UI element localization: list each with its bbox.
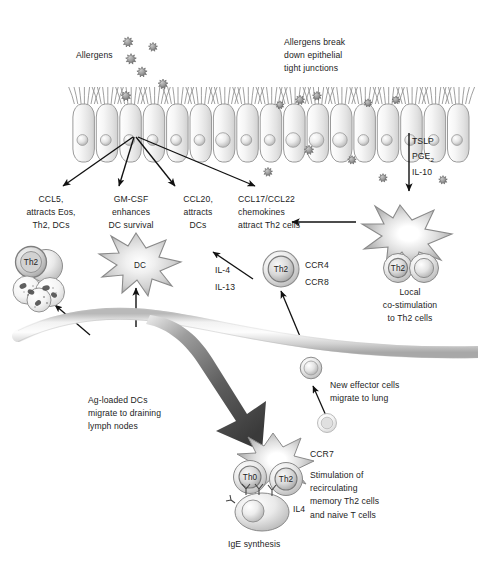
epithelial-cell xyxy=(73,104,95,162)
epithelial-cell xyxy=(260,104,282,162)
epithelial-nucleus xyxy=(381,135,392,146)
label-ag-loaded-dcs: Ag-loaded DCs migrate to draining lymph … xyxy=(88,394,161,434)
label-pge2-subscript: 2 xyxy=(430,156,434,163)
cilium xyxy=(88,87,90,104)
cilium xyxy=(454,87,456,104)
epithelial-cell xyxy=(377,104,399,162)
epithelial-cell xyxy=(237,104,258,162)
cilium xyxy=(430,87,432,104)
effector-cell-in-vessel xyxy=(300,357,322,379)
cilium xyxy=(469,87,475,104)
epithelial-nucleus xyxy=(241,135,252,146)
cilium xyxy=(69,87,75,104)
label-il4: IL-4 xyxy=(215,264,230,277)
epithelial-cell xyxy=(190,104,212,162)
effector-cell-below-vessel xyxy=(318,414,337,433)
cilium xyxy=(407,87,409,104)
cilium xyxy=(158,87,160,104)
cell-tag-th0-lymph: Th0 xyxy=(243,473,257,482)
epithelial-nucleus xyxy=(309,133,324,148)
label-pge2: PGE2 xyxy=(412,150,434,166)
cilium xyxy=(205,87,207,104)
cilium xyxy=(466,87,470,104)
cilium xyxy=(275,87,277,104)
epithelial-nucleus xyxy=(100,135,111,146)
label-gm-csf: GM-CSF enhances DC survival xyxy=(108,193,153,233)
label-il13: IL-13 xyxy=(215,281,235,294)
label-il4-lymph: IL4 xyxy=(293,503,305,516)
epithelial-nucleus xyxy=(77,135,88,146)
cilium xyxy=(228,87,230,104)
epithelial-nucleus xyxy=(264,135,275,146)
cilium xyxy=(290,87,292,104)
allergen-particle xyxy=(123,37,133,47)
allergen-particle xyxy=(313,91,322,100)
allergen-particle xyxy=(264,167,273,176)
label-ige-synthesis: IgE synthesis xyxy=(228,538,280,551)
cilium xyxy=(181,87,183,104)
cilium xyxy=(439,87,441,104)
label-allergens-break: Allergens break down epithelial tight ju… xyxy=(284,36,345,76)
label-ccl17-ccl22: CCL17/CCL22 chemokines attract Th2 cells xyxy=(238,193,300,233)
cilium xyxy=(103,87,105,104)
allergen-particle xyxy=(137,67,147,77)
cell-tag-dc-left: DC xyxy=(134,261,146,270)
dendritic-cell-right xyxy=(362,205,452,283)
cilium xyxy=(337,87,339,104)
cell-tag-th2-right: Th2 xyxy=(391,264,405,273)
cell-tag-th2-lymph: Th2 xyxy=(279,475,293,484)
epithelial-nucleus xyxy=(286,133,301,148)
cell-tag-th2-left: Th2 xyxy=(24,258,38,267)
cilium xyxy=(74,87,78,104)
cilium xyxy=(360,87,362,104)
allergen-particle xyxy=(295,95,304,104)
label-ccl20: CCL20, attracts DCs xyxy=(183,193,213,233)
effector-migration-arrow xyxy=(313,386,327,418)
epithelial-nucleus xyxy=(194,135,205,146)
epithelial-cell xyxy=(96,104,118,162)
allergen-particle xyxy=(379,174,388,183)
lymph-node-complex xyxy=(226,433,314,531)
epithelial-cell xyxy=(120,104,142,162)
cilium xyxy=(135,87,137,104)
figure-root: Allergens Allergens break down epithelia… xyxy=(0,0,478,578)
label-local-costimulation: Local co-stimulation to Th2 cells xyxy=(383,286,437,326)
allergen-particle xyxy=(126,54,137,65)
label-pge2-base: PGE xyxy=(412,151,430,161)
epithelial-nucleus xyxy=(358,135,369,146)
cilium xyxy=(220,87,222,104)
label-tslp: TSLP xyxy=(412,135,434,148)
label-ccr8: CCR8 xyxy=(305,276,329,289)
cilium xyxy=(462,87,464,104)
epithelial-nucleus xyxy=(216,133,231,148)
cilium xyxy=(416,87,418,104)
cilium xyxy=(79,87,81,104)
epithelial-cell xyxy=(354,104,376,162)
cilium xyxy=(173,87,175,104)
label-ccr4: CCR4 xyxy=(305,259,329,272)
cilium xyxy=(267,87,269,104)
epithelial-nucleus xyxy=(452,135,463,146)
cilium xyxy=(345,87,347,104)
epithelial-cell xyxy=(448,104,470,162)
cilium xyxy=(196,87,198,104)
epithelial-cell xyxy=(143,104,165,162)
cilium xyxy=(111,87,113,104)
allergen-particle xyxy=(439,176,448,185)
cilium xyxy=(243,87,245,104)
cilium xyxy=(149,87,151,104)
label-allergens: Allergens xyxy=(76,49,113,62)
label-il10: IL-10 xyxy=(412,166,432,179)
allergen-particle xyxy=(348,156,357,165)
epithelial-nucleus xyxy=(171,135,182,146)
label-new-effector-cells: New effector cells migrate to lung xyxy=(330,379,399,405)
label-stimulation: Stimulation of recirculating memory Th2 … xyxy=(310,469,379,522)
cilium xyxy=(384,87,386,104)
epithelial-nucleus xyxy=(333,133,348,148)
allergen-particle xyxy=(121,91,131,101)
allergen-particle xyxy=(149,42,158,51)
label-ccr7: CCR7 xyxy=(310,448,334,461)
label-ccl5: CCL5, attracts Eos, Th2, DCs xyxy=(26,193,75,233)
allergen-particles xyxy=(121,37,168,101)
cell-tag-th2-center: Th2 xyxy=(274,265,288,274)
